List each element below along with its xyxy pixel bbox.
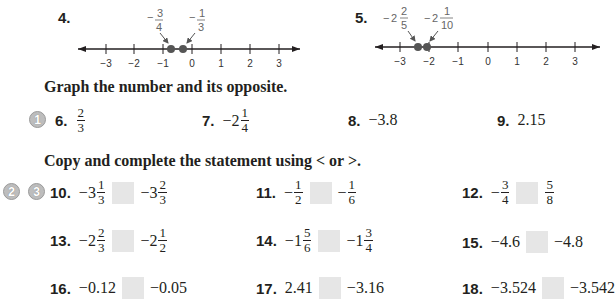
tick-label: −3 xyxy=(394,56,406,67)
tick-label: −2 xyxy=(423,56,435,67)
annotation-den: 3 xyxy=(198,21,204,33)
example-badge-2: 2 xyxy=(3,183,20,200)
tick-label: 1 xyxy=(514,56,520,67)
tick-label: 2 xyxy=(247,58,253,69)
point-dot xyxy=(179,45,187,53)
annotation-sign: − xyxy=(189,11,195,23)
problem-7: 7. − 2 14 xyxy=(202,106,250,135)
problem-10: 10. −3 13 −3 23 xyxy=(50,178,168,207)
annotation-whole: 2 xyxy=(432,12,438,24)
annotation-num: 1 xyxy=(444,5,450,17)
annotation-num: 3 xyxy=(157,7,163,19)
answer-blank[interactable] xyxy=(319,277,341,299)
problem-16: 16. −0.12 −0.05 xyxy=(50,277,187,299)
tick-label: 3 xyxy=(572,56,578,67)
fraction: 23 xyxy=(77,106,86,135)
annotation-den: 10 xyxy=(441,19,453,31)
annotation-den: 5 xyxy=(401,19,407,31)
problem-17: 17. 2.41 −3.16 xyxy=(256,277,384,299)
answer-blank[interactable] xyxy=(318,230,340,252)
tick-label: 0 xyxy=(485,56,491,67)
answer-blank[interactable] xyxy=(542,277,564,299)
example-badge-1: 1 xyxy=(29,111,46,128)
annotation-num: 1 xyxy=(199,7,205,19)
tick-label: 3 xyxy=(276,58,282,69)
tick-label: 2 xyxy=(543,56,549,67)
example-badge-3: 3 xyxy=(28,183,45,200)
problem-5-number: 5. xyxy=(355,9,368,26)
answer-blank[interactable] xyxy=(122,277,144,299)
answer-blank[interactable] xyxy=(516,182,538,204)
annotation-den: 4 xyxy=(156,21,162,33)
section-heading-graph: Graph the number and its opposite. xyxy=(44,78,287,96)
annotation-num: 2 xyxy=(401,5,407,17)
point-dot xyxy=(423,43,431,51)
problem-18: 18. −3.524 −3.542 xyxy=(462,277,615,299)
section-heading-compare: Copy and complete the statement using < … xyxy=(44,152,361,170)
problem-8: 8. −3.8 xyxy=(348,111,398,129)
annotation-sign: − xyxy=(147,11,153,23)
number-lines: −3 −2 −1 0 1 2 3 − 3 4 − 1 3 −3 −2 xyxy=(0,0,609,75)
problem-13: 13. −2 23 −2 12 xyxy=(50,226,168,255)
annotation-sign: − xyxy=(383,12,389,24)
tick-label: −1 xyxy=(452,56,464,67)
number-line-5: −3 −2 −1 0 1 2 3 − 2 2 5 − 2 1 10 xyxy=(375,5,600,67)
point-dot xyxy=(414,43,422,51)
annotation-sign: − xyxy=(424,12,430,24)
problem-11: 11. − 12 − 16 xyxy=(256,178,357,207)
tick-label: −2 xyxy=(128,58,140,69)
answer-blank[interactable] xyxy=(310,182,332,204)
fraction: 14 xyxy=(241,106,250,135)
answer-blank[interactable] xyxy=(112,182,134,204)
tick-label: 0 xyxy=(189,58,195,69)
problem-9: 9. 2.15 xyxy=(497,111,546,129)
tick-label: −3 xyxy=(100,58,112,69)
answer-blank[interactable] xyxy=(526,231,548,253)
problem-14: 14. −1 56 −1 34 xyxy=(256,226,374,255)
problem-12: 12. − 34 58 xyxy=(462,178,555,207)
tick-label: −1 xyxy=(157,58,169,69)
annotation-whole: 2 xyxy=(391,12,397,24)
problem-6: 6. 23 xyxy=(55,106,86,135)
tick-label: 1 xyxy=(218,58,224,69)
problem-15: 15. −4.6 −4.8 xyxy=(462,231,583,253)
answer-blank[interactable] xyxy=(112,230,134,252)
number-line-4: −3 −2 −1 0 1 2 3 − 3 4 − 1 3 xyxy=(78,7,300,69)
point-dot xyxy=(167,45,175,53)
